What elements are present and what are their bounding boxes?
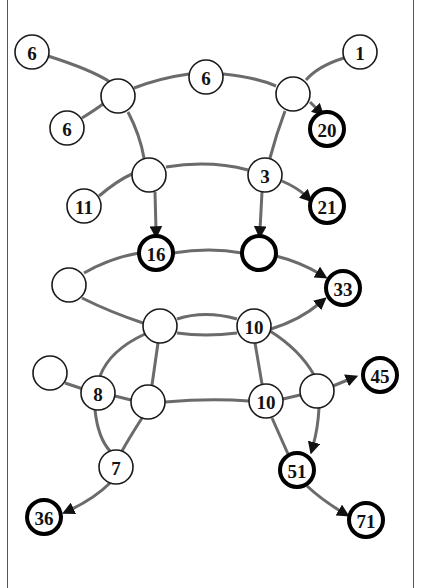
graph-node: 8: [81, 376, 115, 410]
target-node: 20: [310, 112, 344, 146]
graph-node: [132, 158, 166, 192]
edge: [166, 164, 248, 170]
node-circle: [101, 79, 135, 113]
edge: [82, 298, 143, 323]
edge: [165, 400, 249, 402]
edge: [99, 174, 132, 196]
node-circle: [300, 374, 334, 408]
graph-node: 3: [248, 158, 282, 192]
node-circle: [52, 268, 86, 302]
edge: [270, 111, 285, 158]
edge: [65, 383, 83, 389]
edge: [48, 56, 110, 82]
node-label: 8: [93, 384, 103, 405]
node-label: 6: [201, 68, 211, 89]
node-label: 20: [318, 120, 337, 141]
arrow-edge: [307, 486, 342, 512]
target-node: 36: [27, 500, 61, 534]
node-label: 3: [260, 166, 270, 187]
edge: [255, 343, 262, 384]
graph-node: 6: [189, 60, 223, 94]
target-node: [242, 236, 276, 270]
arrow-edge: [260, 192, 262, 230]
node-label: 6: [62, 119, 72, 140]
edge: [95, 410, 110, 451]
arrow-edge: [310, 102, 318, 110]
node-label: 71: [357, 511, 376, 532]
target-node: 33: [326, 271, 360, 305]
node-label: 7: [111, 458, 121, 479]
graph-node: [276, 77, 310, 111]
edge: [84, 253, 139, 273]
node-circle: [131, 385, 165, 419]
edge: [128, 112, 144, 158]
node-label: 10: [245, 317, 264, 338]
node-label: 21: [318, 197, 337, 218]
arrow-edge: [271, 303, 320, 329]
graph-node: [143, 309, 177, 343]
arrow-edge: [70, 483, 110, 510]
target-node: 45: [363, 358, 397, 392]
graph-node: 1: [343, 35, 377, 69]
graph-node: [300, 374, 334, 408]
target-node: 21: [310, 189, 344, 223]
graph-node: [52, 268, 86, 302]
node-label: 16: [147, 244, 166, 265]
arrow-edge: [313, 408, 319, 446]
target-node: 71: [349, 503, 383, 537]
node-label: 11: [75, 197, 93, 218]
node-circle: [143, 309, 177, 343]
edge: [223, 74, 276, 86]
graph-node: 6: [50, 111, 84, 145]
arrow-edge: [155, 192, 156, 230]
node-label: 33: [334, 279, 353, 300]
node-label: 45: [371, 366, 390, 387]
edge: [270, 331, 314, 375]
node-circle: [33, 356, 67, 390]
arrow-edge: [333, 379, 350, 386]
target-node: 51: [280, 453, 314, 487]
graph-node: [33, 356, 67, 390]
edges-layer: [48, 56, 350, 512]
graph-node: 7: [99, 450, 133, 484]
target-node: 16: [139, 236, 173, 270]
edge: [122, 418, 142, 451]
node-label: 51: [288, 461, 307, 482]
edge: [152, 343, 158, 385]
edge: [283, 395, 300, 399]
node-label: 36: [35, 508, 54, 529]
node-label: 6: [27, 43, 37, 64]
edge: [177, 333, 237, 335]
arrow-edge: [276, 256, 320, 274]
edge: [173, 250, 242, 253]
graph-node: 10: [249, 384, 283, 418]
edge: [82, 104, 103, 118]
graph-node: [131, 385, 165, 419]
node-circle: [276, 77, 310, 111]
edge: [177, 315, 237, 320]
graph-node: 10: [237, 309, 271, 343]
node-circle: [132, 158, 166, 192]
edge: [134, 74, 189, 88]
edge: [272, 418, 288, 454]
edge: [306, 58, 344, 80]
node-label: 1: [355, 43, 365, 64]
arrow-edge: [282, 181, 306, 196]
edge: [100, 334, 145, 376]
graph-node: [101, 79, 135, 113]
nodes-layer: 66612011321163310810457365171: [15, 35, 397, 537]
graph-node: 6: [15, 35, 49, 69]
node-circle: [242, 236, 276, 270]
edge: [115, 396, 131, 400]
graph-node: 11: [67, 189, 101, 223]
node-label: 10: [257, 392, 276, 413]
